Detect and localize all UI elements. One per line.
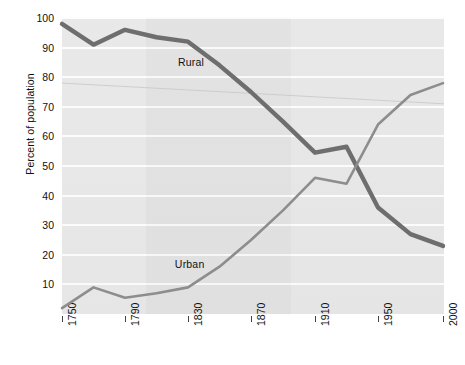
series-label-rural: Rural (178, 56, 204, 68)
series-line-urban (62, 83, 443, 308)
series-lines (0, 0, 465, 365)
chart-root: Percent of population 102030405060708090… (0, 0, 465, 365)
series-line-rural (62, 24, 443, 246)
series-label-urban: Urban (175, 258, 205, 270)
